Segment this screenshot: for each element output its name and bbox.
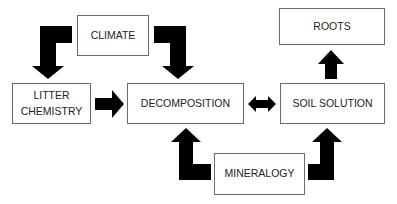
node-label: CLIMATE bbox=[91, 28, 136, 44]
node-litter-chemistry: LITTER CHEMISTRY bbox=[12, 83, 91, 124]
node-label: SOIL SOLUTION bbox=[292, 96, 372, 112]
node-label: MINERALOGY bbox=[224, 166, 294, 182]
node-roots: ROOTS bbox=[279, 8, 385, 45]
node-soil-solution: SOIL SOLUTION bbox=[280, 83, 385, 124]
node-label: ROOTS bbox=[313, 19, 350, 35]
node-decomposition: DECOMPOSITION bbox=[127, 83, 244, 124]
arrow-soil-to-roots bbox=[318, 50, 344, 79]
node-climate: CLIMATE bbox=[77, 15, 149, 56]
node-label-line2: CHEMISTRY bbox=[21, 104, 83, 120]
node-label-line1: LITTER bbox=[33, 88, 69, 104]
node-mineralogy: MINERALOGY bbox=[214, 153, 305, 195]
arrow-mineralogy-to-soil bbox=[308, 128, 342, 180]
arrow-climate-to-litter bbox=[32, 26, 72, 79]
arrow-mineralogy-to-decomposition bbox=[171, 128, 211, 180]
arrow-climate-to-decomposition bbox=[154, 26, 194, 79]
node-label: DECOMPOSITION bbox=[141, 96, 230, 112]
arrow-decomposition-soil-bidirectional bbox=[248, 96, 276, 112]
arrow-litter-to-decomposition bbox=[95, 90, 124, 118]
